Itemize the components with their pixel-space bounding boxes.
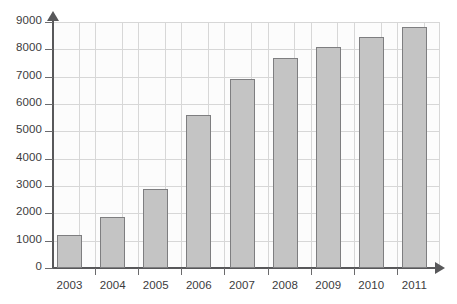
- y-tick-label: 8000: [0, 41, 42, 53]
- y-tick-mark: [45, 49, 53, 50]
- y-axis-line: [52, 18, 54, 268]
- x-tick-label: 2010: [349, 279, 393, 291]
- y-tick-mark: [45, 22, 53, 23]
- y-tick-mark: [45, 159, 53, 160]
- y-tick-label: 5000: [0, 123, 42, 135]
- x-tick-label: 2011: [392, 279, 436, 291]
- x-tick-mark: [95, 268, 96, 275]
- gridline-vertical: [95, 22, 96, 268]
- x-tick-label: 2007: [220, 279, 264, 291]
- x-tick-label: 2008: [263, 279, 307, 291]
- gridline-vertical: [439, 22, 440, 268]
- y-axis-arrow-icon: [47, 11, 59, 21]
- y-tick-mark: [45, 241, 53, 242]
- gridline-vertical: [311, 22, 312, 268]
- bar: [230, 79, 255, 268]
- bar: [143, 189, 168, 268]
- y-tick-label: 2000: [0, 205, 42, 217]
- x-tick-mark: [311, 268, 312, 275]
- y-tick-label: 3000: [0, 178, 42, 190]
- x-tick-label: 2006: [177, 279, 221, 291]
- y-tick-mark: [45, 77, 53, 78]
- y-tick-label: 4000: [0, 151, 42, 163]
- x-tick-mark: [354, 268, 355, 275]
- x-tick-label: 2003: [48, 279, 92, 291]
- y-tick-mark: [45, 268, 53, 269]
- gridline-vertical: [79, 22, 80, 268]
- gridline-vertical: [138, 22, 139, 268]
- y-tick-label: 0: [0, 260, 42, 272]
- bar-chart: 0100020003000400050006000700080009000 20…: [0, 0, 457, 304]
- x-tick-label: 2004: [91, 279, 135, 291]
- y-tick-mark: [45, 186, 53, 187]
- x-tick-mark: [138, 268, 139, 275]
- x-tick-label: 2009: [306, 279, 350, 291]
- bar: [273, 58, 298, 268]
- y-tick-mark: [45, 131, 53, 132]
- bar: [186, 115, 211, 268]
- bar: [359, 37, 384, 268]
- x-tick-mark: [181, 268, 182, 275]
- gridline-vertical: [397, 22, 398, 268]
- gridline-vertical: [354, 22, 355, 268]
- y-tick-label: 1000: [0, 233, 42, 245]
- x-tick-label: 2005: [134, 279, 178, 291]
- gridline-vertical: [224, 22, 225, 268]
- bar: [100, 217, 125, 268]
- x-tick-mark: [224, 268, 225, 275]
- bar: [57, 235, 82, 268]
- gridline-vertical: [181, 22, 182, 268]
- x-tick-mark: [397, 268, 398, 275]
- y-tick-mark: [45, 104, 53, 105]
- y-tick-label: 9000: [0, 14, 42, 26]
- x-axis-arrow-icon: [435, 262, 445, 274]
- x-tick-mark: [268, 268, 269, 275]
- y-tick-mark: [45, 213, 53, 214]
- gridline-vertical: [268, 22, 269, 268]
- y-tick-label: 6000: [0, 96, 42, 108]
- bar: [402, 27, 427, 268]
- bar: [316, 47, 341, 268]
- y-tick-label: 7000: [0, 69, 42, 81]
